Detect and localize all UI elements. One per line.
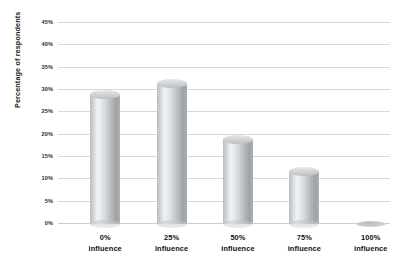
y-tick-label: 0% (45, 220, 53, 226)
x-tick-label: 25%influence (155, 233, 188, 254)
x-tick-label: 100%influence (354, 233, 387, 254)
bar-top-ellipse (157, 79, 187, 88)
y-tick-label: 40% (42, 41, 54, 47)
y-tick-label: 20% (42, 131, 54, 137)
y-axis-title: Percentage of respondents (13, 0, 22, 108)
bar-base-ellipse (90, 220, 120, 228)
bar-series (58, 23, 390, 224)
bar (90, 94, 120, 224)
y-tick-label: 25% (42, 108, 54, 114)
bar (157, 83, 187, 224)
x-tick-label: 75%influence (288, 233, 321, 254)
bar-body (289, 171, 319, 224)
y-tick-label: 45% (42, 19, 54, 25)
x-tick-label-line: influence (354, 244, 387, 255)
bar-chart: Percentage of respondents 0%5%10%15%20%2… (0, 0, 407, 270)
x-tick-label: 50%influence (221, 233, 254, 254)
bar-top-ellipse (289, 167, 319, 176)
x-tick-label-line: 75% (288, 233, 321, 244)
x-tick-label-line: influence (221, 244, 254, 255)
y-tick-label: 30% (42, 86, 54, 92)
bar-body (90, 94, 120, 224)
y-tick-label: 10% (42, 175, 54, 181)
bar-body (157, 83, 187, 224)
x-tick-label-line: 25% (155, 233, 188, 244)
plot-area: 0%5%10%15%20%25%30%35%40%45% (58, 23, 390, 224)
y-tick-label: 5% (45, 198, 53, 204)
bar-base-ellipse (223, 220, 253, 228)
bar (223, 139, 253, 224)
x-tick-label-line: 0% (88, 233, 121, 244)
bar-top-ellipse (223, 135, 253, 144)
x-tick-label-line: influence (155, 244, 188, 255)
bar (356, 221, 386, 227)
bar-base-ellipse (289, 220, 319, 228)
x-tick-label-line: influence (288, 244, 321, 255)
bar-base-ellipse (157, 220, 187, 228)
x-tick-label-line: influence (88, 244, 121, 255)
y-tick-label: 35% (42, 64, 54, 70)
bar-body (223, 139, 253, 224)
bar-top-ellipse (90, 90, 120, 99)
x-tick-label: 0%influence (88, 233, 121, 254)
y-tick-label: 15% (42, 153, 54, 159)
x-tick-label-line: 50% (221, 233, 254, 244)
x-tick-label-line: 100% (354, 233, 387, 244)
bar (289, 171, 319, 224)
